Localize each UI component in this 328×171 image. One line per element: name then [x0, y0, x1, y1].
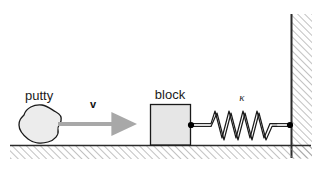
ground [10, 146, 312, 160]
wall-hatch [292, 14, 312, 158]
block-label: block [155, 87, 186, 102]
block-object [151, 105, 191, 146]
diagram-canvas: putty v block κ [0, 0, 328, 171]
ground-hatch [10, 146, 312, 159]
putty-object [19, 105, 61, 143]
putty-blob [19, 105, 61, 143]
putty-label: putty [25, 88, 54, 103]
spring-block-attachment-dot [188, 122, 194, 128]
physics-diagram: putty v block κ [0, 0, 328, 171]
spring-assembly [188, 111, 293, 140]
spring-wall-attachment-dot [287, 122, 293, 128]
velocity-label: v [90, 98, 97, 110]
spring-constant-label: κ [239, 91, 245, 103]
wall [292, 14, 313, 158]
block-body [151, 105, 191, 146]
